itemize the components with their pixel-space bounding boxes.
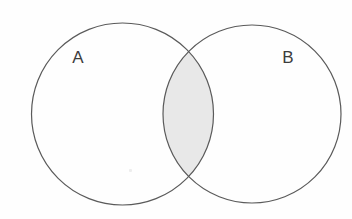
- set-label-b: B: [282, 48, 294, 67]
- intersection-fill: [163, 25, 341, 203]
- scan-speck-artifact: [129, 169, 132, 172]
- venn-diagram-svg: A B: [0, 0, 352, 219]
- venn-diagram-canvas: A B: [0, 0, 352, 219]
- set-label-a: A: [72, 48, 84, 67]
- intersection-shaded-region: [163, 25, 341, 203]
